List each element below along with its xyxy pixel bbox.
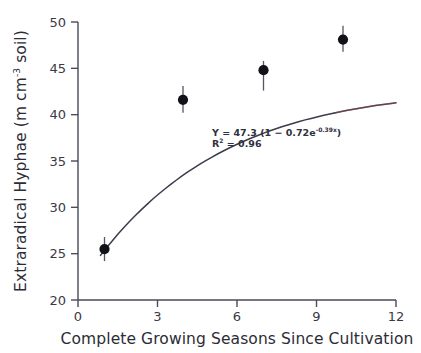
x-tick-label: 9 (312, 309, 320, 324)
data-point (99, 244, 109, 254)
x-tick-label: 0 (74, 309, 82, 324)
y-tick-label: 25 (49, 246, 66, 261)
y-axis-title-superscript: -3 (12, 68, 22, 77)
y-tick-label: 45 (49, 61, 66, 76)
x-tick-label: 6 (233, 309, 241, 324)
eq-suffix: ) (337, 127, 341, 138)
data-point (258, 65, 268, 75)
eq-minus: − (274, 127, 282, 138)
scatter-plot-svg: 20 25 30 35 40 45 50 0 3 6 9 12 Complete… (0, 0, 421, 353)
x-axis-title: Complete Growing Seasons Since Cultivati… (61, 330, 414, 348)
y-tick-label: 35 (49, 154, 66, 169)
y-tick-label: 50 (49, 15, 66, 30)
y-tick-label: 20 (49, 293, 66, 308)
x-tick-label: 12 (388, 309, 405, 324)
x-tick-label: 3 (153, 309, 161, 324)
y-axis-title-main: Extraradical Hyphae (m cm (12, 77, 30, 292)
chart-figure: 20 25 30 35 40 45 50 0 3 6 9 12 Complete… (0, 0, 421, 353)
y-tick-label: 40 (49, 107, 66, 122)
y-tick-label: 30 (49, 200, 66, 215)
data-point (178, 95, 188, 105)
data-point (338, 35, 348, 45)
r2-value: = 0.96 (224, 138, 262, 149)
eq-exponent: -0.39x (316, 126, 337, 133)
y-axis-title-tail: soil) (12, 30, 30, 68)
eq-mid: 0.72e (282, 127, 315, 138)
